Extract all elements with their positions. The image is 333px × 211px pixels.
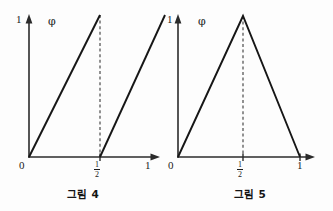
y-axis-arrowhead <box>175 14 182 24</box>
sawtooth-ramp-1 <box>29 15 100 157</box>
origin-label: 0 <box>19 160 25 171</box>
x-tick-label-one-half: 1 2 <box>237 161 243 179</box>
fraction-denominator: 2 <box>237 171 243 179</box>
origin-label: 0 <box>168 160 174 171</box>
figure-4-plot <box>0 0 166 211</box>
x-axis-arrowhead <box>151 154 161 161</box>
function-symbol-phi: φ <box>48 16 56 27</box>
y-axis-top-label: 1 <box>16 14 22 25</box>
figure-page: 1 φ 0 1 2 1 그림 4 <box>0 0 333 211</box>
figure-5-panel: 1 φ 0 1 2 1 그림 5 <box>167 0 333 211</box>
fraction-numerator: 1 <box>94 161 100 169</box>
x-tick-label-one-half: 1 2 <box>94 161 100 179</box>
figure-5-plot <box>167 0 333 211</box>
x-axis-arrowhead <box>306 154 316 161</box>
y-axis-arrowhead <box>26 14 33 24</box>
function-symbol-phi: φ <box>198 16 206 27</box>
x-tick-label-one: 1 <box>297 160 303 171</box>
fraction-numerator: 1 <box>237 161 243 169</box>
figure-5-caption: 그림 5 <box>167 186 333 201</box>
fraction-denominator: 2 <box>94 171 100 179</box>
sawtooth-ramp-2 <box>100 15 165 157</box>
figure-4-panel: 1 φ 0 1 2 1 그림 4 <box>0 0 166 211</box>
x-tick-label-one: 1 <box>145 160 151 171</box>
y-axis-top-label: 1 <box>167 14 173 25</box>
triangle-wave <box>178 16 300 157</box>
figure-4-caption: 그림 4 <box>0 186 166 201</box>
